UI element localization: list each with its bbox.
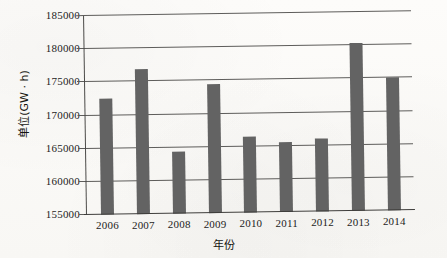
x-axis-tick-label: 2012 <box>303 216 343 228</box>
x-axis-tick-label: 2014 <box>374 215 414 227</box>
bar <box>243 137 257 213</box>
plot-skew-wrapper <box>83 11 414 215</box>
y-axis-title: 单位(GW · h) <box>15 49 31 159</box>
y-axis-line <box>83 16 87 215</box>
x-axis-tick-label: 2010 <box>231 217 271 229</box>
bar <box>349 42 364 211</box>
bar <box>315 138 329 211</box>
y-axis-tick-label: 185000 <box>14 9 80 21</box>
x-axis-title: 年份 <box>0 236 447 252</box>
bar <box>99 99 114 215</box>
y-axis-tick-label: 155000 <box>14 208 80 220</box>
gridlines <box>83 11 411 16</box>
bar <box>207 84 222 213</box>
x-axis-tick-label: 2013 <box>338 216 378 228</box>
x-axis-tick-label: 2008 <box>159 218 199 230</box>
x-axis-tick-label: 2007 <box>123 219 163 231</box>
plot-area <box>86 16 414 215</box>
x-axis-tick-label: 2011 <box>267 217 307 229</box>
bar <box>279 142 293 212</box>
x-axis-tick-labels: 200620072008200920102011201220132014 <box>86 219 414 237</box>
bar <box>386 78 401 211</box>
bar <box>135 69 150 214</box>
bar <box>172 152 186 214</box>
y-axis-tick-label: 160000 <box>14 175 80 187</box>
x-axis-tick-label: 2006 <box>88 219 128 231</box>
chart-page: 1550001600001650001700001750001800001850… <box>0 0 447 258</box>
gridline <box>83 10 411 16</box>
x-axis-tick-label: 2009 <box>195 218 235 230</box>
